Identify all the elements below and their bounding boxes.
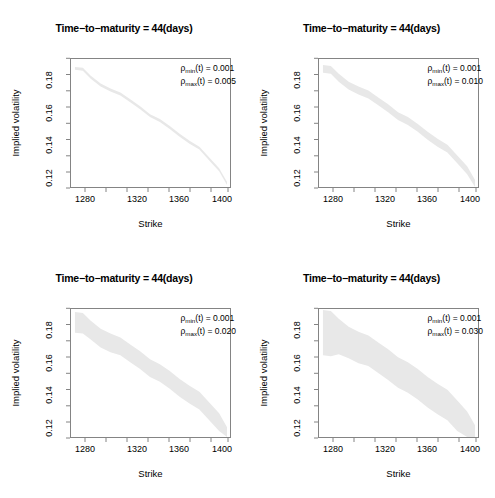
y-tick-label-0: 0.12 xyxy=(44,415,54,441)
rho-max-line: ρmax(t) = 0.010 xyxy=(427,75,483,88)
y-axis-label: Implied volatility xyxy=(10,58,24,188)
x-tick-label-3: 1400 xyxy=(205,194,239,204)
x-axis-label: Strike xyxy=(70,218,231,229)
x-tick-label-3: 1400 xyxy=(453,444,487,454)
y-axis-label: Implied volatility xyxy=(10,308,24,438)
panel-title: Time−to−maturity = 44(days) xyxy=(248,272,495,284)
rho-min-subscript: min xyxy=(185,317,195,324)
y-tick-label-3: 0.18 xyxy=(292,67,302,93)
panel-title: Time−to−maturity = 44(days) xyxy=(248,22,495,34)
rho-annotation: ρmin(t) = 0.001 ρmax(t) = 0.030 xyxy=(427,312,483,338)
y-tick-label-0: 0.12 xyxy=(292,165,302,191)
x-tick-label-2: 1360 xyxy=(162,194,196,204)
y-tick-label-2: 0.16 xyxy=(292,100,302,126)
rho-min-value: (t) = 0.001 xyxy=(195,63,234,73)
y-tick-label-1: 0.14 xyxy=(44,132,54,158)
rho-min-line: ρmin(t) = 0.001 xyxy=(180,312,236,325)
x-tick-label-1: 1320 xyxy=(120,444,154,454)
y-tick-label-0: 0.12 xyxy=(292,415,302,441)
rho-max-value: (t) = 0.005 xyxy=(197,76,236,86)
x-tick-label-3: 1400 xyxy=(453,194,487,204)
panel-title: Time−to−maturity = 44(days) xyxy=(0,22,248,34)
rho-min-line: ρmin(t) = 0.001 xyxy=(180,62,236,75)
rho-max-subscript: max xyxy=(432,80,444,87)
rho-max-value: (t) = 0.020 xyxy=(197,326,236,336)
x-tick-label-0: 1280 xyxy=(316,194,350,204)
y-axis-label: Implied volatility xyxy=(258,308,272,438)
rho-min-value: (t) = 0.001 xyxy=(442,313,481,323)
rho-min-value: (t) = 0.001 xyxy=(442,63,481,73)
rho-min-subscript: min xyxy=(432,67,442,74)
plot-panel-2: Time−to−maturity = 44(days) Implied vola… xyxy=(248,0,495,250)
rho-max-value: (t) = 0.010 xyxy=(444,76,483,86)
rho-max-line: ρmax(t) = 0.030 xyxy=(427,325,483,338)
rho-max-subscript: max xyxy=(185,330,197,337)
plot-panel-1: Time−to−maturity = 44(days) Implied vola… xyxy=(0,0,248,250)
y-tick-label-2: 0.16 xyxy=(44,100,54,126)
x-tick-label-0: 1280 xyxy=(68,444,102,454)
x-tick-label-1: 1320 xyxy=(120,194,154,204)
rho-max-line: ρmax(t) = 0.005 xyxy=(180,75,236,88)
rho-max-subscript: max xyxy=(185,80,197,87)
y-tick-label-3: 0.18 xyxy=(292,317,302,343)
y-tick-label-1: 0.14 xyxy=(292,132,302,158)
rho-max-line: ρmax(t) = 0.020 xyxy=(180,325,236,338)
rho-min-value: (t) = 0.001 xyxy=(195,313,234,323)
x-axis-label: Strike xyxy=(318,218,479,229)
y-tick-label-3: 0.18 xyxy=(44,67,54,93)
x-tick-label-1: 1320 xyxy=(368,194,402,204)
rho-annotation: ρmin(t) = 0.001 ρmax(t) = 0.005 xyxy=(180,62,236,88)
rho-annotation: ρmin(t) = 0.001 ρmax(t) = 0.010 xyxy=(427,62,483,88)
x-axis-label: Strike xyxy=(318,468,479,479)
y-tick-label-3: 0.18 xyxy=(44,317,54,343)
rho-max-subscript: max xyxy=(432,330,444,337)
plot-panel-3: Time−to−maturity = 44(days) Implied vola… xyxy=(0,250,248,498)
panel-title: Time−to−maturity = 44(days) xyxy=(0,272,248,284)
x-tick-label-0: 1280 xyxy=(68,194,102,204)
x-tick-label-2: 1360 xyxy=(162,444,196,454)
rho-min-line: ρmin(t) = 0.001 xyxy=(427,312,483,325)
y-tick-label-2: 0.16 xyxy=(44,350,54,376)
y-tick-label-0: 0.12 xyxy=(44,165,54,191)
y-tick-label-1: 0.14 xyxy=(292,382,302,408)
plot-panel-4: Time−to−maturity = 44(days) Implied vola… xyxy=(248,250,495,498)
x-tick-label-1: 1320 xyxy=(368,444,402,454)
x-tick-label-3: 1400 xyxy=(205,444,239,454)
panel-grid: Time−to−maturity = 44(days) Implied vola… xyxy=(0,0,495,498)
x-tick-label-2: 1360 xyxy=(410,444,444,454)
x-tick-label-0: 1280 xyxy=(316,444,350,454)
rho-min-subscript: min xyxy=(432,317,442,324)
rho-min-line: ρmin(t) = 0.001 xyxy=(427,62,483,75)
y-tick-label-2: 0.16 xyxy=(292,350,302,376)
x-tick-label-2: 1360 xyxy=(410,194,444,204)
rho-min-subscript: min xyxy=(185,67,195,74)
rho-max-value: (t) = 0.030 xyxy=(444,326,483,336)
x-axis-label: Strike xyxy=(70,468,231,479)
rho-annotation: ρmin(t) = 0.001 ρmax(t) = 0.020 xyxy=(180,312,236,338)
y-axis-label: Implied volatility xyxy=(258,58,272,188)
y-tick-label-1: 0.14 xyxy=(44,382,54,408)
